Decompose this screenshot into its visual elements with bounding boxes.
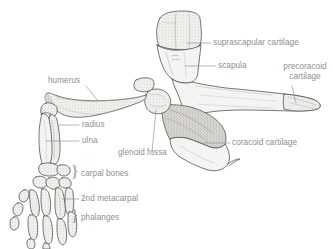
phalanx-1b-shape <box>13 203 23 216</box>
label-carpal-bones: carpal bones <box>81 169 128 179</box>
anatomy-figure: suprascapular cartilage scapula precorac… <box>0 0 333 249</box>
leader-glenoid <box>152 110 156 152</box>
brace-phalanges: } <box>71 208 79 224</box>
metacarpal-0-shape <box>29 190 39 217</box>
brace-carpal-bones: } <box>71 164 79 180</box>
carpal-distal-1-shape <box>33 176 47 188</box>
label-glenoid-fossa: glenoid fossa <box>118 148 167 158</box>
suprascapular-cartilage-shape <box>157 11 202 52</box>
label-phalanges: phalanges <box>81 213 119 223</box>
phalanx-3a-shape <box>43 216 53 244</box>
accessory-ossicle-shape <box>134 78 154 92</box>
phalanx-2a-shape <box>28 215 38 240</box>
phalanx-1c-shape <box>10 217 19 230</box>
label-radius: radius <box>82 120 105 130</box>
carpal-distal-3-shape <box>59 178 71 188</box>
phalanx-1a-shape <box>19 190 29 202</box>
metacarpal-1-shape <box>41 189 51 216</box>
leader-humerus <box>86 86 98 101</box>
label-suprascapular-cartilage: suprascapular cartilage <box>213 38 299 48</box>
label-scapula: scapula <box>218 61 247 71</box>
label-second-metacarpal: 2nd metacarpal <box>81 194 138 204</box>
label-precoracoid-cartilage-line1: precoracoid <box>283 62 326 71</box>
label-coracoid-cartilage: coracoid cartilage <box>232 138 297 148</box>
humerus-shape <box>45 93 146 117</box>
scapula-shape <box>157 45 201 83</box>
glenoid-fossa-shape <box>145 89 171 114</box>
phalanx-4a-shape <box>57 219 67 245</box>
carpal-radiale-shape <box>39 163 60 176</box>
label-humerus: humerus <box>48 76 80 86</box>
label-ulna: ulna <box>82 136 98 146</box>
phalanx-2b-shape <box>27 239 35 249</box>
carpal-ulnare-shape <box>57 165 70 176</box>
label-precoracoid-cartilage-line2: cartilage <box>289 72 320 81</box>
precoracoid-cartilage-shape <box>283 94 320 111</box>
